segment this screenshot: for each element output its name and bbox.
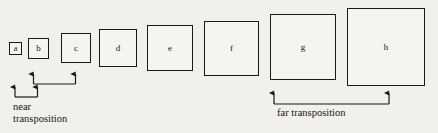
near-transposition-bracket-bc <box>34 74 76 84</box>
near-transposition-label-line1: near <box>13 101 67 113</box>
near-transposition-label: near transposition <box>13 101 67 126</box>
transposition-figure: a b c d e f g h <box>0 0 438 133</box>
near-transposition-label-line2: transposition <box>13 113 67 125</box>
far-transposition-bracket-gh <box>274 93 389 104</box>
far-transposition-label: far transposition <box>277 107 346 119</box>
near-transposition-bracket-ab <box>15 87 38 97</box>
